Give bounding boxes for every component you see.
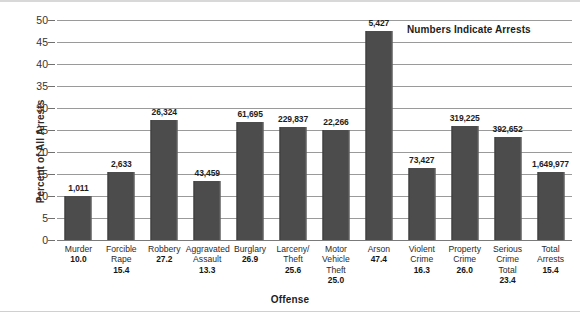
- category-label-line: Murder: [57, 244, 100, 254]
- x-axis-title: Offense: [0, 294, 580, 305]
- bar[interactable]: [365, 31, 392, 240]
- category-percent-value: 15.4: [100, 265, 143, 275]
- category-label: MotorVehicleTheft25.0: [315, 244, 358, 286]
- y-tick-25: [48, 130, 55, 131]
- category-label: Burglary26.9: [229, 244, 272, 265]
- category-label-line: Theft: [315, 265, 358, 275]
- bar-value-label: 26,324: [152, 107, 177, 117]
- category-label: Murder10.0: [57, 244, 100, 265]
- bar-slot: 61,695: [229, 20, 272, 240]
- y-tick-label-35: 35: [22, 81, 48, 91]
- bar-value-label: 1,011: [68, 183, 88, 193]
- category-label-line: Larceny/: [272, 244, 315, 254]
- category-label-line: Vehicle: [315, 254, 358, 264]
- y-tick-50: [48, 20, 55, 21]
- bar[interactable]: [451, 126, 478, 240]
- category-percent-value: 15.4: [529, 265, 572, 275]
- bar-value-label: 22,266: [323, 117, 348, 127]
- category-percent-value: 23.4: [486, 275, 529, 285]
- y-tick-20: [48, 152, 55, 153]
- y-axis-tick-labels: 05101520253035404550: [20, 20, 48, 240]
- top-border: [0, 0, 580, 2]
- category-label-line: Theft: [272, 254, 315, 264]
- category-label-line: Total: [486, 265, 529, 275]
- category-label-line: Forcible: [100, 244, 143, 254]
- y-tick-label-20: 20: [22, 147, 48, 157]
- category-label: TotalArrests15.4: [529, 244, 572, 275]
- bar[interactable]: [194, 181, 221, 240]
- y-tick-5: [48, 218, 55, 219]
- bar-slot: 1,011: [57, 20, 100, 240]
- category-label-line: Arson: [357, 244, 400, 254]
- bar[interactable]: [108, 172, 135, 240]
- y-tick-30: [48, 108, 55, 109]
- category-label: AggravatedAssault13.3: [186, 244, 229, 275]
- bar-value-label: 73,427: [409, 155, 434, 165]
- gridline-0: [57, 240, 572, 241]
- bar[interactable]: [237, 122, 264, 240]
- category-percent-value: 10.0: [57, 254, 100, 264]
- category-label-line: Aggravated: [186, 244, 229, 254]
- bar[interactable]: [408, 168, 435, 240]
- y-tick-label-5: 5: [22, 213, 48, 223]
- category-label: Larceny/Theft25.6: [272, 244, 315, 275]
- y-tick-label-0: 0: [22, 235, 48, 245]
- y-tick-15: [48, 174, 55, 175]
- category-label: Robbery27.2: [143, 244, 186, 265]
- bar-value-label: 2,633: [111, 159, 132, 169]
- category-label-line: Rape: [100, 254, 143, 264]
- category-percent-value: 25.6: [272, 265, 315, 275]
- category-label-line: Property: [443, 244, 486, 254]
- bar[interactable]: [322, 130, 349, 240]
- category-percent-value: 27.2: [143, 254, 186, 264]
- bar-slot: 73,427: [400, 20, 443, 240]
- category-label-line: Total: [529, 244, 572, 254]
- y-tick-label-40: 40: [22, 59, 48, 69]
- bar-slot: 229,837: [272, 20, 315, 240]
- category-percent-value: 26.9: [229, 254, 272, 264]
- category-label-line: Crime: [443, 254, 486, 264]
- bar-value-label: 43,459: [195, 168, 220, 178]
- bar-slot: 319,225: [443, 20, 486, 240]
- category-label: ViolentCrime16.3: [400, 244, 443, 275]
- annotation-label: Numbers Indicate Arrests: [407, 24, 531, 35]
- category-label: ForcibleRape15.4: [100, 244, 143, 275]
- bar[interactable]: [537, 172, 564, 240]
- bottom-border: [0, 311, 580, 312]
- plot-area: 1,0112,63326,32443,45961,695229,83722,26…: [57, 20, 572, 240]
- category-label-line: Arrests: [529, 254, 572, 264]
- y-tick-45: [48, 42, 55, 43]
- category-label-line: Robbery: [143, 244, 186, 254]
- category-label: Arson47.4: [357, 244, 400, 265]
- bars-group: 1,0112,63326,32443,45961,695229,83722,26…: [57, 20, 572, 240]
- bar[interactable]: [280, 127, 307, 240]
- y-tick-label-10: 10: [22, 191, 48, 201]
- bar[interactable]: [151, 120, 178, 240]
- bar-value-label: 392,652: [493, 124, 523, 134]
- bar-value-label: 229,837: [278, 114, 308, 124]
- bar-slot: 22,266: [315, 20, 358, 240]
- y-tick-label-25: 25: [22, 125, 48, 135]
- category-label: PropertyCrime26.0: [443, 244, 486, 275]
- bar-value-label: 5,427: [368, 18, 389, 28]
- category-label: SeriousCrimeTotal23.4: [486, 244, 529, 286]
- y-tick-40: [48, 64, 55, 65]
- category-label-line: Burglary: [229, 244, 272, 254]
- bar-value-label: 61,695: [237, 109, 262, 119]
- bar-chart: Percent of All Arrests 05101520253035404…: [0, 0, 580, 319]
- bar[interactable]: [494, 137, 521, 240]
- y-tick-0: [48, 240, 55, 241]
- category-label-line: Violent: [400, 244, 443, 254]
- bar[interactable]: [65, 196, 92, 240]
- y-tick-label-45: 45: [22, 37, 48, 47]
- bar-value-label: 1,649,977: [532, 159, 569, 169]
- category-label-line: Serious: [486, 244, 529, 254]
- y-tick-label-30: 30: [22, 103, 48, 113]
- bar-slot: 5,427: [357, 20, 400, 240]
- bar-slot: 26,324: [143, 20, 186, 240]
- bar-slot: 392,652: [486, 20, 529, 240]
- y-tick-label-50: 50: [22, 15, 48, 25]
- category-percent-value: 26.0: [443, 265, 486, 275]
- category-label-line: Assault: [186, 254, 229, 264]
- y-tick-label-15: 15: [22, 169, 48, 179]
